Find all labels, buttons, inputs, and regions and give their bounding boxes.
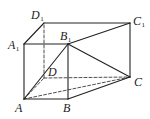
visible-edges: [24, 23, 130, 99]
prism-diagram: ABCDA1B1C1D1: [0, 0, 150, 119]
vertex-label-c: C: [134, 75, 143, 89]
vertex-label-b1: B1: [60, 29, 72, 44]
edge-d-c: [44, 77, 130, 78]
edge-b1-c: [68, 44, 130, 77]
vertex-label-d: D: [47, 65, 57, 79]
vertex-label-c1: C1: [133, 14, 146, 29]
vertex-label-a1: A1: [7, 38, 20, 53]
edge-b-c: [68, 77, 130, 99]
vertex-label-d1: D1: [30, 8, 44, 23]
vertex-label-a: A: [14, 101, 23, 115]
hidden-edges: [24, 23, 130, 99]
edge-d1-a1: [24, 23, 44, 44]
vertex-label-b: B: [63, 101, 71, 115]
edge-b1-c1: [68, 23, 130, 44]
edge-a-b1: [24, 44, 68, 99]
